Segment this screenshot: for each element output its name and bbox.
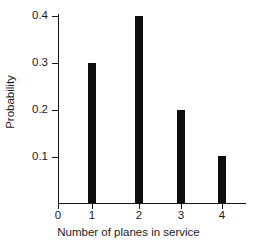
x-tick-label-3: 3 [169,209,193,221]
x-axis-title: Number of planes in service [0,226,257,239]
y-tick-mark-0.1 [52,157,58,158]
y-tick-mark-0.3 [52,63,58,64]
x-tick-label-0: 0 [46,209,70,221]
bar-3 [177,110,185,204]
y-axis-title-text: Probability [4,75,16,129]
y-tick-label-0.4: 0.4 [32,10,48,22]
y-tick-label-0.1: 0.1 [32,151,48,163]
x-tick-label-4: 4 [210,209,234,221]
y-tick-mark-0.4 [52,16,58,17]
probability-bar-chart: Probability 0.4 0.3 0.2 0.1 0 1 2 3 4 Nu… [0,0,257,247]
y-tick-label-0.3: 0.3 [32,57,48,69]
bar-4 [218,156,226,203]
bar-2 [135,16,143,203]
y-tick-label-0.2: 0.2 [32,104,48,116]
x-tick-label-2: 2 [127,209,151,221]
y-axis-line [58,14,59,204]
y-tick-mark-0.2 [52,110,58,111]
x-tick-label-1: 1 [80,209,104,221]
y-axis-title: Probability [2,0,18,203]
bar-1 [88,63,96,203]
x-axis-line [58,203,246,204]
